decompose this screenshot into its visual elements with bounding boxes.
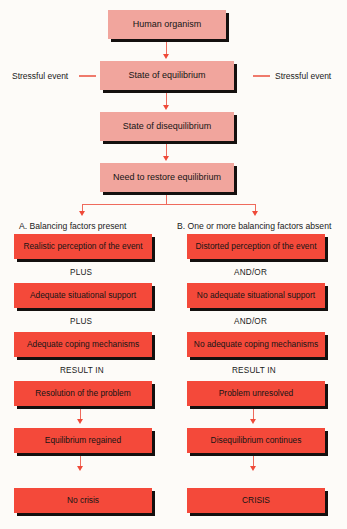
label-stressful-event-right: Stressful event <box>275 71 331 81</box>
node-b-outcome-2: Disequilibrium continues <box>187 428 325 453</box>
fork-arrow-left <box>79 211 85 216</box>
connector-label-b-2: AND/OR <box>234 317 267 326</box>
node-state-of-equilibrium: State of equilibrium <box>100 61 234 90</box>
connector-arrow-a-1 <box>77 419 83 424</box>
connector-arrow-2 <box>163 105 169 110</box>
branch-heading-text: B. One or more balancing factors absent <box>177 221 331 231</box>
connector-label-text: AND/OR <box>234 317 267 326</box>
side-label-text: Stressful event <box>275 71 331 81</box>
fork-crossbar <box>82 204 255 205</box>
node-label: No crisis <box>67 496 99 505</box>
node-label: Realistic perception of the event <box>23 242 142 251</box>
connector-label-text: AND/OR <box>234 268 267 277</box>
flowchart-canvas: Human organism State of equilibrium Stre… <box>0 0 347 529</box>
result-label-b: RESULT IN <box>232 366 276 375</box>
node-a-step-1: Realistic perception of the event <box>14 234 152 259</box>
node-label: Resolution of the problem <box>35 389 130 398</box>
node-label: Problem unresolved <box>219 389 293 398</box>
node-label: CRISIS <box>242 496 270 505</box>
node-b-outcome-1: Problem unresolved <box>187 381 325 406</box>
connector-arrow-3 <box>163 156 169 161</box>
connector-arrow-b-1 <box>250 419 256 424</box>
node-a-step-3: Adequate coping mechanisms <box>14 332 152 357</box>
connector-label-a-1: PLUS <box>70 268 92 277</box>
node-label: No adequate situational support <box>197 291 315 300</box>
branch-heading-b: B. One or more balancing factors absent <box>177 221 331 231</box>
node-a-outcome-1: Resolution of the problem <box>14 381 152 406</box>
node-label: State of disequilibrium <box>123 122 212 131</box>
node-b-step-2: No adequate situational support <box>187 283 325 308</box>
node-state-of-disequilibrium: State of disequilibrium <box>100 112 234 141</box>
connector-stub-left <box>79 75 96 77</box>
branch-heading-text: A. Balancing factors present <box>19 221 126 231</box>
node-label: Need to restore equilibrium <box>113 173 221 182</box>
branch-heading-a: A. Balancing factors present <box>19 221 126 231</box>
node-label: No adequate coping mechanisms <box>194 340 318 349</box>
node-label: Adequate situational support <box>30 291 136 300</box>
node-b-step-3: No adequate coping mechanisms <box>187 332 325 357</box>
node-label: Adequate coping mechanisms <box>27 340 139 349</box>
node-a-outcome-2: Equilibrium regained <box>14 428 152 453</box>
connector-label-b-1: AND/OR <box>234 268 267 277</box>
connector-label-text: PLUS <box>70 317 92 326</box>
connector-arrow-a-2 <box>77 466 83 471</box>
connector-arrow-b-2 <box>250 466 256 471</box>
connector-stub-right <box>253 75 270 77</box>
side-label-text: Stressful event <box>12 71 68 81</box>
connector-label-text: PLUS <box>70 268 92 277</box>
result-label-text: RESULT IN <box>60 366 104 375</box>
connector-label-a-2: PLUS <box>70 317 92 326</box>
node-label: Distorted perception of the event <box>195 242 316 251</box>
node-a-outcome-3: No crisis <box>14 488 152 513</box>
node-b-outcome-3: CRISIS <box>187 488 325 513</box>
node-need-to-restore-equilibrium: Need to restore equilibrium <box>100 163 234 192</box>
node-label: Disequilibrium continues <box>211 436 302 445</box>
node-label: State of equilibrium <box>128 71 205 80</box>
node-b-step-1: Distorted perception of the event <box>187 234 325 259</box>
node-human-organism: Human organism <box>108 10 226 39</box>
connector-arrow-1 <box>163 54 169 59</box>
label-stressful-event-left: Stressful event <box>12 71 68 81</box>
node-label: Equilibrium regained <box>45 436 121 445</box>
fork-arrow-right <box>252 211 258 216</box>
result-label-text: RESULT IN <box>232 366 276 375</box>
result-label-a: RESULT IN <box>60 366 104 375</box>
node-a-step-2: Adequate situational support <box>14 283 152 308</box>
node-label: Human organism <box>133 20 202 29</box>
